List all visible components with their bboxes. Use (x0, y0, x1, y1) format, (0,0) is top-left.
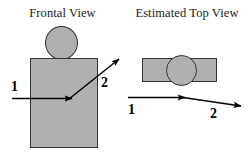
top-view-panel: Estimated Top View 1 2 (125, 0, 249, 157)
top-arrow-1-label: 1 (128, 103, 135, 117)
top-view-title: Estimated Top View (125, 6, 249, 21)
frontal-head-circle (45, 26, 78, 60)
frontal-arrow-1-label: 1 (11, 80, 18, 94)
frontal-body-rectangle (30, 58, 98, 148)
top-arrow-2 (183, 98, 241, 107)
top-head-circle (166, 55, 197, 86)
frontal-view-panel: Frontal View 1 2 (0, 0, 125, 157)
diagram-canvas: Frontal View 1 2 Estimated Top View (0, 0, 249, 157)
top-arrow-2-label: 2 (210, 107, 217, 121)
frontal-arrow-2-label: 2 (101, 76, 108, 90)
frontal-view-title: Frontal View (0, 6, 125, 21)
